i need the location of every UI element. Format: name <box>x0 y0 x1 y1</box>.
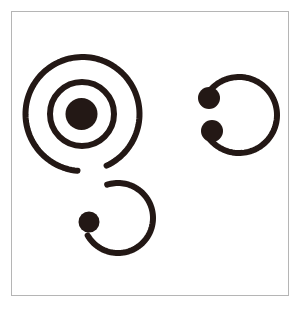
center-dot <box>66 98 98 130</box>
c-top-dot <box>198 87 220 109</box>
c-bottom-dot <box>201 120 223 142</box>
figure-canvas <box>0 0 301 309</box>
right-c-figure <box>198 77 277 153</box>
line-art-illustration <box>0 0 301 309</box>
lower-tail-dot <box>79 212 100 233</box>
left-spiral-figure <box>26 57 153 253</box>
